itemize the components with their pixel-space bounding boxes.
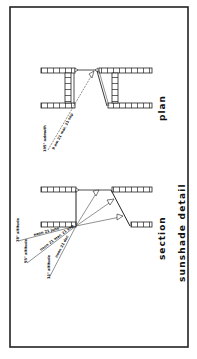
section-slab-right-top [112,187,152,192]
sunshade-detail-drawing: 195° azimuth 9 am 21 mar. 21 sep plan 78… [0,0,197,359]
plan-title: plan [157,95,167,121]
plan-view: 195° azimuth 9 am 21 mar. 21 sep plan [41,68,167,152]
plan-arrow-icon [89,71,94,78]
alt-55-label: 55° altitude [24,238,28,263]
plan-wall-left-top [41,68,75,73]
plan-azimuth-label: 195° azimuth [43,125,47,152]
section-title: section [157,216,167,260]
plan-wall-right-bottom [108,103,152,108]
drawing-frame [10,7,188,347]
arrow-icon-1 [93,190,99,196]
plan-time-label: 9 am 21 mar. 21 sep [51,112,74,150]
plan-wall-right-top [99,68,152,73]
section-slab-left-top [41,187,76,192]
arrow-icon-2 [107,199,114,205]
plan-wall-left-bottom [41,103,75,108]
section-view: 78° altitude noon 21 june 55° altitude n… [16,183,187,282]
section-slab-right-bottom [131,222,152,227]
caption: sunshade detail [177,183,187,282]
plan-wall-left-vertical [65,73,71,103]
alt-31-label: 31° altitude [47,254,51,279]
alt-78-label: 78° altitude [16,217,20,242]
plan-wall-right-vertical [112,73,118,103]
arrow-icon-3 [117,214,123,220]
